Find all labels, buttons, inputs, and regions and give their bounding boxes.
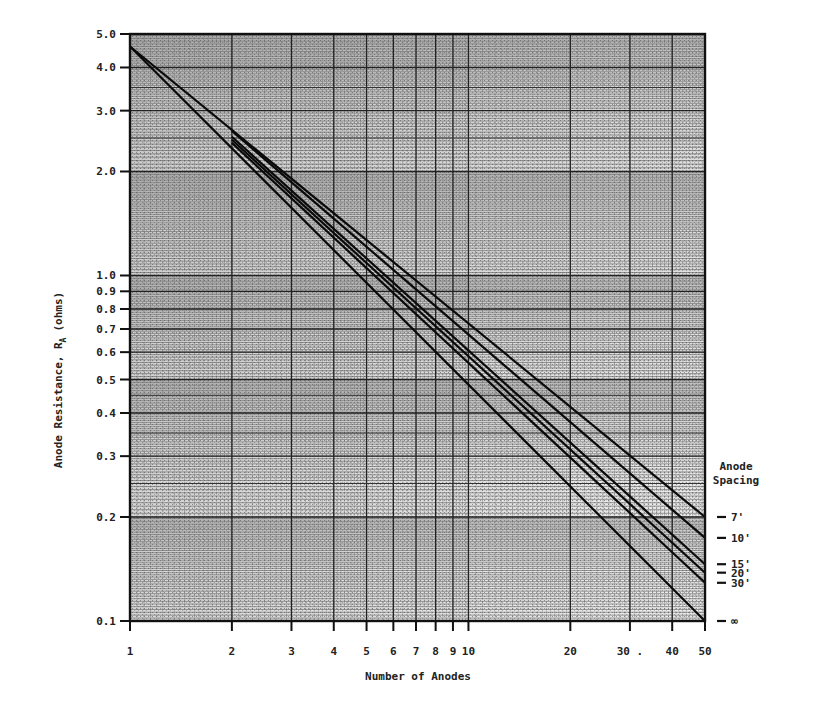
x-axis-title: Number of Anodes xyxy=(365,670,471,683)
y-tick-label: 5.0 xyxy=(96,28,116,41)
y-tick-label: 4.0 xyxy=(96,61,116,74)
x-tick-label: 10 xyxy=(462,645,475,658)
chart: 0.10.20.30.40.50.60.70.80.91.02.03.04.05… xyxy=(0,0,821,722)
legend-label: 10' xyxy=(731,532,751,545)
x-tick-label: 5 xyxy=(363,645,370,658)
x-tick-label: 4 xyxy=(330,645,337,658)
y-tick-label: 0.5 xyxy=(96,374,116,387)
legend: AnodeSpacing7'10'15'20'30'∞ xyxy=(713,460,759,628)
legend-label: 7' xyxy=(731,511,744,524)
y-tick-label: 2.0 xyxy=(96,165,116,178)
y-tick-label: 3.0 xyxy=(96,105,116,118)
x-tick-label: 1 xyxy=(127,645,134,658)
legend-title: Spacing xyxy=(713,474,759,487)
y-tick-label: 0.4 xyxy=(96,407,116,420)
y-tick-label: 0.8 xyxy=(96,303,116,316)
y-axis-title-units: (ohms) xyxy=(52,292,65,332)
x-tick-label: 20 xyxy=(564,645,577,658)
y-axis-ticks: 0.10.20.30.40.50.60.70.80.91.02.03.04.05… xyxy=(96,28,130,628)
y-axis-title-subscript: A xyxy=(59,337,68,342)
x-tick-label: 2 xyxy=(229,645,236,658)
y-axis-title-main: Anode Resistance, R xyxy=(52,342,65,468)
x-tick-label: 6 xyxy=(390,645,397,658)
x-tick-label: 50 xyxy=(698,645,711,658)
x-tick-label: 8 xyxy=(432,645,439,658)
y-tick-label: 0.3 xyxy=(96,450,116,463)
y-axis-title-group: Anode Resistance, RA(ohms) xyxy=(52,292,68,468)
x-tick-label: 40 xyxy=(666,645,679,658)
x-tick-label: 7 xyxy=(413,645,420,658)
y-tick-label: 1.0 xyxy=(96,269,116,282)
chart-svg: 0.10.20.30.40.50.60.70.80.91.02.03.04.05… xyxy=(0,0,821,722)
legend-label: 30' xyxy=(731,577,751,590)
y-tick-label: 0.7 xyxy=(96,323,116,336)
y-axis-title: Anode Resistance, RA(ohms) xyxy=(52,292,68,468)
legend-title: Anode xyxy=(719,460,752,473)
x-tick-label: 9 xyxy=(450,645,457,658)
legend-label: ∞ xyxy=(731,615,738,628)
y-tick-label: 0.1 xyxy=(96,615,116,628)
y-tick-label: 0.2 xyxy=(96,511,116,524)
y-tick-label: 0.9 xyxy=(96,285,116,298)
x-tick-label: 30 . xyxy=(617,645,644,658)
x-tick-label: 3 xyxy=(288,645,295,658)
x-axis-ticks: 123456789102030 .4050 xyxy=(127,621,712,658)
y-tick-label: 0.6 xyxy=(96,346,116,359)
